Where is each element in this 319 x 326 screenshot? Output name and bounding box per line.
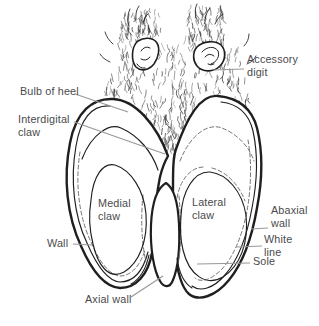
- interdigital-cleft-shape: [151, 183, 179, 286]
- left-dewclaw-shape: [132, 38, 158, 70]
- hoof-diagram: Accessory digit Bulb of heel Interdigita…: [0, 0, 319, 326]
- leader-accessory-digit: [213, 69, 244, 70]
- right-dewclaw-shape: [194, 42, 225, 71]
- label-interdigital-claw: Interdigital claw: [18, 113, 70, 140]
- label-lateral-claw: Lateral claw: [192, 196, 226, 223]
- label-accessory-digit: Accessory digit: [247, 53, 298, 80]
- label-wall: Wall: [47, 237, 68, 250]
- label-abaxial-wall: Abaxial wall: [271, 204, 307, 231]
- label-sole: Sole: [253, 255, 275, 268]
- label-medial-claw: Medial claw: [98, 197, 131, 224]
- label-bulb-of-heel: Bulb of heel: [20, 85, 79, 98]
- hoof-artwork: [0, 0, 319, 326]
- label-axial-wall: Axial wall: [85, 293, 132, 306]
